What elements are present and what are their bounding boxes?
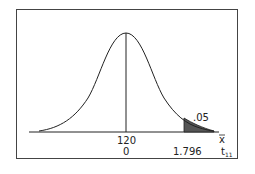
xbar-axis-label: x [219, 135, 225, 145]
t-axis-label: t11 [221, 147, 233, 160]
alpha-label: .05 [193, 113, 209, 123]
t-subscript: 11 [225, 151, 233, 158]
t-zero-label: 0 [123, 147, 129, 157]
mean-value-label: 120 [117, 136, 136, 146]
critical-t-label: 1.796 [173, 147, 202, 157]
